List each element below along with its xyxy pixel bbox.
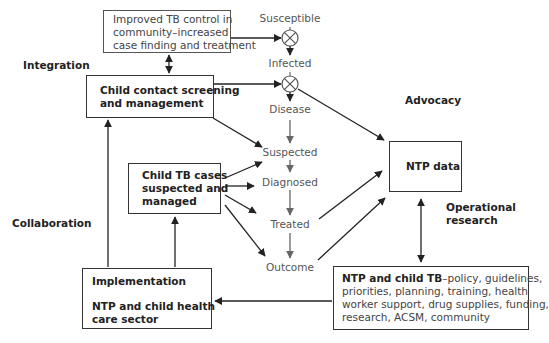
ntp-child-tb-line-1-rest: –policy, guidelines, (442, 272, 542, 284)
ntp-child-tb-lead: NTP and child TB (342, 272, 442, 284)
ntp-child-tb-line-1: NTP and child TB–policy, guidelines, (342, 272, 542, 285)
stage-infected: Infected (269, 57, 312, 69)
stage-disease: Disease (269, 103, 310, 115)
ntp-child-tb-box: NTP and child TB–policy, guidelines, pri… (333, 266, 529, 330)
susceptible-infected-junction-icon (282, 30, 298, 46)
stage-diagnosed: Diagnosed (262, 176, 318, 188)
implementation-line-2: care sector (92, 313, 158, 326)
community-box-line-3: case finding and treatment (113, 39, 256, 52)
ntp-child-tb-line-4: research, ACSM, community (342, 311, 490, 324)
child-tb-cases-box: Child TB cases suspected and managed (128, 163, 221, 214)
arrow-cases-to-suspected (225, 162, 262, 178)
arrow-disease-to-ntp-data (298, 89, 384, 140)
label-integration: Integration (23, 59, 90, 72)
community-box-line-1: Improved TB control in (113, 13, 232, 26)
arrow-cases-to-outcome (225, 205, 265, 256)
implementation-box: Implementation NTP and child health care… (82, 268, 212, 329)
ntp-data-label: NTP data (406, 160, 460, 173)
implementation-title: Implementation (92, 275, 186, 288)
label-operational-research-1: Operational (446, 201, 516, 214)
label-advocacy: Advocacy (405, 94, 461, 107)
ntp-child-tb-line-3: worker support, drug supplies, funding, (342, 298, 549, 311)
stage-outcome: Outcome (266, 261, 314, 273)
arrow-outcome-to-ntp-data (318, 198, 385, 260)
arrow-contact-to-suspected (213, 118, 262, 147)
ntp-child-tb-line-2: priorities, planning, training, health (342, 285, 528, 298)
stage-treated: Treated (270, 218, 309, 230)
ntp-data-box: NTP data (389, 141, 462, 192)
contact-box-line-1: Child contact screening (100, 84, 239, 97)
stage-susceptible: Susceptible (260, 12, 321, 24)
cases-box-line-3: managed (142, 195, 197, 208)
cases-box-line-2: suspected and (142, 182, 228, 195)
contact-box-line-2: and management (100, 97, 204, 110)
child-contact-screening-box: Child contact screening and management (86, 75, 214, 118)
implementation-line-1: NTP and child health (92, 300, 215, 313)
community-tb-control-box: Improved TB control in community–increas… (103, 10, 231, 53)
label-collaboration: Collaboration (12, 217, 92, 230)
cases-box-line-1: Child TB cases (142, 169, 227, 182)
arrow-treated-to-ntp-data (319, 171, 382, 219)
infected-disease-junction-icon (282, 76, 298, 92)
label-operational-research-2: research (446, 214, 498, 227)
community-box-line-2: community–increased (113, 26, 228, 39)
stage-suspected: Suspected (263, 146, 318, 158)
